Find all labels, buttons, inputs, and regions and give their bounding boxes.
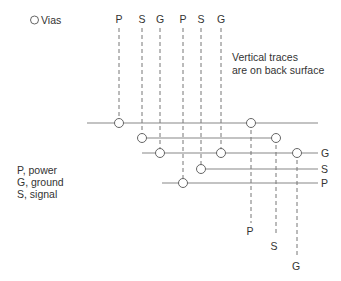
top-label-s2: S — [197, 13, 204, 25]
via-icon — [247, 119, 256, 128]
via-icon — [115, 119, 124, 128]
diagram-canvas — [0, 0, 341, 281]
note-line-2: are on back surface — [232, 64, 324, 76]
via-icon — [272, 134, 281, 143]
right-label-g: G — [321, 147, 329, 159]
top-label-s1: S — [138, 13, 145, 25]
legend-via-icon — [31, 16, 39, 24]
bottom-label-p: P — [246, 225, 253, 237]
via-icon — [179, 179, 188, 188]
legend-vias-label: Vias — [41, 14, 61, 26]
via-icon — [197, 165, 206, 174]
top-label-g2: G — [217, 13, 225, 25]
top-label-g1: G — [156, 13, 164, 25]
note-line-1: Vertical traces — [232, 51, 298, 63]
via-icon — [156, 149, 165, 158]
key-signal: S, signal — [17, 188, 57, 200]
top-label-p1: P — [115, 13, 122, 25]
key-ground: G, ground — [17, 176, 64, 188]
top-label-p2: P — [179, 13, 186, 25]
via-icon — [217, 149, 226, 158]
key-power: P, power — [17, 164, 57, 176]
bottom-label-g: G — [292, 260, 300, 272]
right-label-s: S — [321, 163, 328, 175]
right-label-p: P — [321, 177, 328, 189]
bottom-label-s: S — [270, 240, 277, 252]
via-icon — [293, 149, 302, 158]
via-icon — [138, 134, 147, 143]
